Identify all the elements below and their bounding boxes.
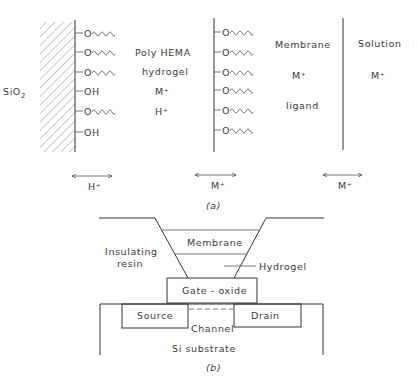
membrane-group-o-chain: O — [214, 105, 253, 116]
membrane-group-o-chain: O — [214, 47, 253, 58]
hydrogel-ion-h-label: H⁺ — [155, 106, 168, 117]
surface-group-o-chain: O — [75, 106, 115, 117]
channel-label: Channel — [191, 323, 234, 334]
membrane-ion-label: M⁺ — [292, 70, 306, 81]
panel-b-caption: (b) — [206, 362, 221, 373]
svg-text:O: O — [84, 106, 92, 117]
gate-oxide-label: Gate - oxide — [182, 285, 247, 296]
surface-group-o-chain: O — [75, 47, 115, 58]
surface-group-oh: OH — [75, 86, 100, 97]
membrane-layer-label: Membrane — [187, 237, 243, 248]
svg-text:O: O — [222, 67, 230, 78]
solution-label: Solution — [358, 38, 402, 49]
surface-groups-membrane: O O O O O — [214, 27, 253, 136]
svg-text:M⁺: M⁺ — [338, 180, 352, 191]
svg-text:O: O — [84, 67, 92, 78]
exchange-arrow-m-membrane: M⁺ — [195, 175, 236, 191]
panel-a: SiO2 O O O OH — [3, 18, 402, 211]
svg-text:O: O — [222, 105, 230, 116]
solution-ion-label: M⁺ — [371, 70, 385, 81]
surface-group-oh: OH — [75, 127, 100, 138]
svg-text:OH: OH — [84, 127, 100, 138]
svg-text:H⁺: H⁺ — [88, 181, 101, 192]
svg-text:OH: OH — [84, 86, 100, 97]
svg-text:O: O — [84, 28, 92, 39]
panel-a-caption: (a) — [206, 200, 221, 211]
si-substrate-label: Si substrate — [172, 343, 236, 354]
surface-group-o-chain: O — [75, 67, 115, 78]
svg-text:O: O — [222, 125, 230, 136]
panel-b: Insulating resin Membrane Hydrogel Gate … — [99, 218, 324, 373]
membrane-group-o-chain: O — [214, 27, 253, 38]
membrane-label: Membrane — [275, 39, 331, 50]
hydrogel-label: hydrogel — [142, 66, 189, 77]
sio2-hatched-region — [40, 22, 75, 152]
svg-text:O: O — [222, 27, 230, 38]
membrane-group-o-chain: O — [214, 67, 253, 78]
hydrogel-ion-m-label: M⁺ — [155, 86, 169, 97]
diagram-canvas: SiO2 O O O OH — [0, 0, 417, 388]
insulating-label: Insulating — [105, 246, 158, 257]
svg-text:O: O — [84, 47, 92, 58]
surface-group-o-chain: O — [75, 28, 115, 39]
source-label: Source — [137, 310, 173, 321]
svg-text:O: O — [222, 85, 230, 96]
svg-text:M⁺: M⁺ — [211, 180, 225, 191]
ligand-label: ligand — [286, 100, 319, 111]
exchange-arrow-h: H⁺ — [72, 176, 112, 192]
poly-hema-label: Poly HEMA — [135, 47, 191, 58]
resin-label: resin — [117, 258, 143, 269]
drain-label: Drain — [251, 310, 280, 321]
figure: SiO2 O O O OH — [0, 0, 417, 388]
surface-groups-left: O O O OH O — [75, 28, 115, 138]
svg-text:O: O — [222, 47, 230, 58]
hydrogel-layer-label: Hydrogel — [259, 261, 307, 272]
exchange-arrow-m-solution: M⁺ — [323, 175, 362, 191]
sio2-label: SiO2 — [3, 86, 26, 100]
membrane-group-o-chain: O — [214, 125, 253, 136]
membrane-group-o-chain: O — [214, 85, 253, 96]
